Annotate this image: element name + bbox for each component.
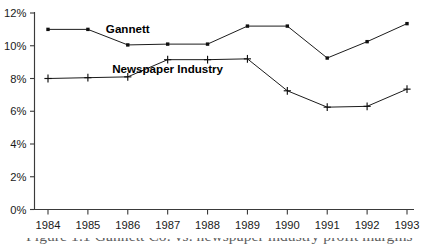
series-label: Newspaper Industry	[112, 62, 223, 75]
y-axis-tick-label: 6%	[10, 105, 26, 117]
data-point-marker	[46, 28, 49, 31]
x-axis-tick-label: 1991	[315, 219, 340, 231]
profit-margins-line-chart: 0%2%4%6%8%10%12% 19841985198619871988198…	[0, 0, 422, 249]
series-annotations: GannettNewspaper Industry	[106, 22, 224, 74]
y-axis: 0%2%4%6%8%10%12%	[4, 7, 34, 216]
data-point-marker	[126, 43, 129, 46]
data-series	[44, 55, 410, 111]
data-point-marker	[405, 22, 408, 25]
x-axis-tick-label: 1990	[275, 219, 300, 231]
y-axis-ticks	[30, 13, 35, 210]
data-point-marker	[246, 24, 249, 27]
series-line	[48, 59, 407, 107]
x-axis-tick-label: 1989	[235, 219, 260, 231]
y-axis-tick-label: 8%	[10, 73, 26, 85]
x-axis-tick-label: 1988	[195, 219, 220, 231]
x-axis-tick-label: 1984	[36, 219, 61, 231]
x-axis-tick-label: 1992	[355, 219, 380, 231]
data-point-marker	[86, 28, 89, 31]
x-axis-tick-label: 1987	[155, 219, 180, 231]
x-axis-ticks	[48, 210, 407, 215]
data-point-marker	[365, 40, 368, 43]
y-axis-tick-label: 4%	[10, 138, 26, 150]
x-axis-tick-label: 1986	[115, 219, 140, 231]
data-point-marker	[166, 42, 169, 45]
data-point-marker	[206, 42, 209, 45]
figure-container: 0%2%4%6%8%10%12% 19841985198619871988198…	[0, 0, 422, 249]
data-point-marker	[326, 56, 329, 59]
series-label: Gannett	[106, 22, 150, 35]
y-axis-tick-label: 2%	[10, 171, 26, 183]
x-axis: 1984198519861987198819891990199119921993	[34, 210, 419, 231]
y-axis-tick-labels: 0%2%4%6%8%10%12%	[4, 7, 26, 216]
x-axis-tick-label: 1993	[395, 219, 420, 231]
y-axis-tick-label: 10%	[4, 40, 26, 52]
y-axis-tick-label: 0%	[10, 204, 26, 216]
data-point-marker	[286, 24, 289, 27]
series-layer	[44, 22, 410, 111]
series-line	[48, 24, 407, 58]
y-axis-tick-label: 12%	[4, 7, 26, 19]
x-axis-tick-label: 1985	[75, 219, 100, 231]
data-series	[46, 22, 408, 60]
x-axis-tick-labels: 1984198519861987198819891990199119921993	[36, 219, 420, 231]
